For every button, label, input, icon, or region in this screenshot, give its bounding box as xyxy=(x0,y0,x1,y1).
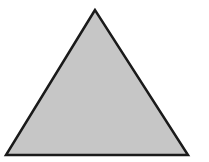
diagram-canvas xyxy=(0,0,209,162)
triangle-shape xyxy=(6,10,188,155)
